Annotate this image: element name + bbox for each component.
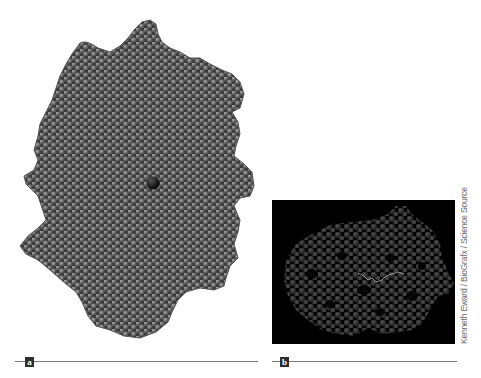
photo-credit: Kenneth Eward / BioGrafx / Science Sourc… <box>457 200 471 344</box>
ligand-atom <box>147 177 160 190</box>
panel-label-a: a <box>25 357 34 367</box>
caption-row-b: b <box>272 357 457 366</box>
protein-spacefill-image <box>0 0 265 345</box>
caption-row-a: a <box>15 357 258 366</box>
protein-silhouette <box>20 20 254 338</box>
caption-line-a <box>15 361 258 362</box>
caption-line-b <box>272 361 457 362</box>
protein-translucent-image <box>272 200 455 344</box>
panel-label-b: b <box>280 357 289 367</box>
panel-a-protein-spacefill <box>0 0 265 345</box>
panel-b-protein-translucent <box>272 200 455 344</box>
